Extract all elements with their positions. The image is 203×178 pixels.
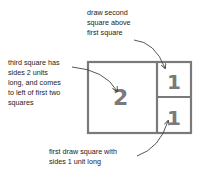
annotation-second-square: draw second square above first square: [87, 8, 131, 38]
arrow-second-square: [134, 40, 165, 68]
square-1-top-label: 1: [167, 70, 181, 94]
annotation-third-square: third square has sides 2 units long, and…: [8, 58, 61, 108]
annotation-first-square: first draw square with sides 1 unit long: [49, 147, 117, 167]
arrow-third-square: [72, 67, 117, 91]
arrow-first-square: [137, 121, 168, 156]
square-1-bottom-label: 1: [167, 106, 181, 130]
